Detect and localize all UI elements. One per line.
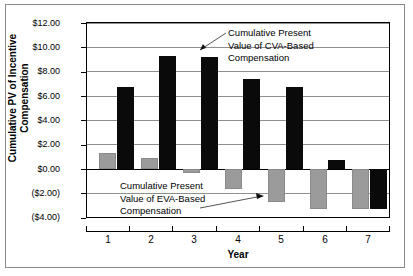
x-axis-line — [86, 231, 390, 232]
annotation-eva-line-3: Compensation — [120, 205, 205, 218]
x-tick-mark — [303, 226, 304, 232]
y-tick-label: $6.00 — [37, 92, 60, 101]
chart-figure: Cumulative PV of Incentive Compensation … — [0, 0, 413, 276]
bar-eva-year-6 — [310, 169, 327, 209]
annotation-cva-line-3: Compensation — [228, 52, 314, 65]
annotation-cva-line-2: Value of CVA-Based — [228, 40, 314, 53]
gridline-8 — [87, 71, 389, 72]
bar-cva-year-6 — [328, 160, 345, 169]
x-tick-label-1: 1 — [96, 234, 120, 245]
y-tick-label: $10.00 — [32, 43, 60, 52]
annotation-cva-label: Cumulative Present Value of CVA-Based Co… — [228, 27, 314, 65]
x-tick-mark — [129, 226, 130, 232]
y-tick-label: $12.00 — [32, 19, 60, 28]
x-tick-label-6: 6 — [313, 234, 337, 245]
annotation-eva-line-1: Cumulative Present — [120, 180, 205, 193]
y-tick-label: $4.00 — [37, 116, 60, 125]
x-tick-mark — [86, 226, 87, 232]
annotation-eva-label: Cumulative Present Value of EVA-Based Co… — [120, 180, 205, 218]
bar-eva-year-7 — [352, 169, 369, 209]
bar-cva-year-7 — [370, 169, 387, 209]
annotation-eva-line-2: Value of EVA-Based — [120, 193, 205, 206]
bar-cva-year-4 — [243, 79, 260, 169]
bar-eva-year-2 — [141, 158, 158, 169]
x-tick-label-5: 5 — [269, 234, 293, 245]
bar-cva-year-2 — [159, 56, 176, 169]
x-tick-mark — [346, 226, 347, 232]
bar-eva-year-4 — [225, 169, 242, 189]
gridline-12 — [87, 23, 389, 24]
x-tick-mark — [259, 226, 260, 232]
bar-cva-year-3 — [201, 57, 218, 169]
bar-eva-year-1 — [99, 153, 116, 169]
x-tick-label-2: 2 — [139, 234, 163, 245]
bar-cva-year-1 — [117, 87, 134, 169]
x-tick-mark — [216, 226, 217, 232]
bar-eva-year-3 — [183, 169, 200, 173]
x-tick-mark — [172, 226, 173, 232]
y-tick-label: ($2.00) — [31, 189, 60, 198]
y-tick-label: $0.00 — [37, 165, 60, 174]
y-tick-mark — [81, 218, 86, 219]
annotation-cva-line-1: Cumulative Present — [228, 27, 314, 40]
y-tick-label: ($4.00) — [31, 213, 60, 222]
x-tick-mark — [389, 226, 390, 232]
x-tick-label-3: 3 — [182, 234, 206, 245]
y-tick-label: $8.00 — [37, 67, 60, 76]
y-axis-tick-labels: $12.00 $10.00 $8.00 $6.00 $4.00 $2.00 $0… — [0, 0, 86, 276]
y-tick-label: $2.00 — [37, 140, 60, 149]
x-tick-label-7: 7 — [356, 234, 380, 245]
x-axis-title: Year — [86, 249, 390, 260]
bar-cva-year-5 — [286, 87, 303, 169]
x-tick-label-4: 4 — [226, 234, 250, 245]
bar-eva-year-5 — [268, 169, 285, 202]
